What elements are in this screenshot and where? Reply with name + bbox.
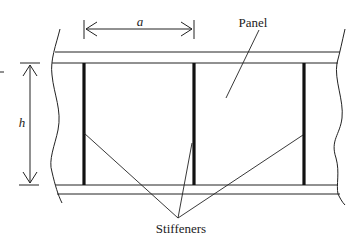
panel-label: Panel <box>239 15 268 30</box>
panel-leader-line <box>226 30 259 98</box>
stiffeners-label: Stiffeners <box>156 221 206 236</box>
dimension-h-label: h <box>19 115 26 130</box>
stiffened-panel-diagram: a h Panel Stiffeners <box>0 0 357 244</box>
right-break-line <box>334 29 345 205</box>
top-flange <box>52 52 340 63</box>
left-break-line <box>51 29 62 203</box>
stiffeners <box>84 63 304 185</box>
diagram-canvas: a h Panel Stiffeners <box>0 0 357 244</box>
dimension-a-label: a <box>137 14 144 29</box>
bottom-flange <box>55 185 340 194</box>
